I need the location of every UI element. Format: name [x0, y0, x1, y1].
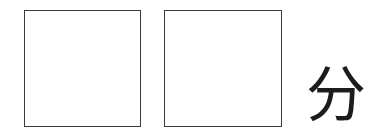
answer-box-2-value	[165, 11, 281, 126]
answer-box-2[interactable]	[164, 10, 282, 127]
unit-label-minutes: 分	[305, 60, 367, 130]
worksheet-canvas: 分	[0, 0, 387, 136]
answer-box-1[interactable]	[24, 10, 141, 127]
answer-box-1-value	[25, 11, 140, 126]
